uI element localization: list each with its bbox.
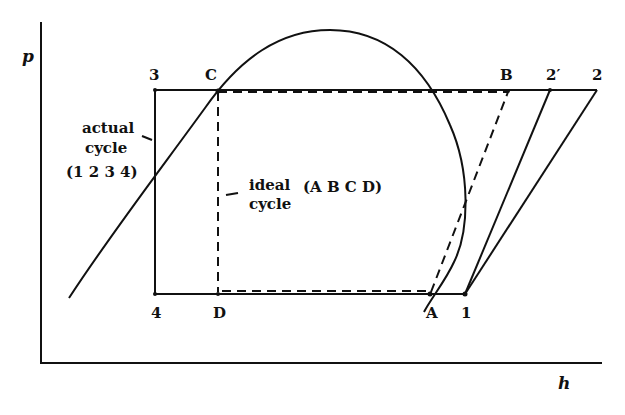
actual-compression-line [465,90,597,294]
x-axis-label: h [558,373,570,393]
annotation-ideal-line3: (A B C D) [303,178,382,196]
point-B-dot [506,89,510,93]
label-point-2prime: 2′ [546,66,560,84]
label-point-A: A [425,304,438,322]
label-point-B: B [500,66,513,84]
label-point-3: 3 [149,66,159,84]
annotation-actual-line1: actual [82,119,134,137]
compression-2prime-line [465,90,550,294]
point-D-dot [216,292,220,296]
annotation-actual-leader [142,136,152,140]
annotation-actual-line3: (1 2 3 4) [66,163,138,181]
label-point-C: C [205,66,217,84]
point-C-dot [216,89,221,94]
label-point-D: D [213,304,226,322]
point-1-dot [463,292,468,297]
annotation-ideal-leader [226,193,238,195]
point-A-dot [428,292,433,297]
point-4-dot [153,292,157,296]
annotation-ideal-line1: ideal [249,176,290,194]
p-h-diagram: p h 3 C B 2′ 2 4 D A 1 actual cycle (1 2… [0,0,625,415]
y-axis-label: p [22,46,34,66]
annotation-actual-line2: cycle [85,139,127,157]
label-point-4: 4 [151,304,161,322]
annotation-ideal-line2: cycle [249,195,291,213]
point-3-dot [153,88,157,92]
point-2prime-dot [548,88,552,92]
ideal-compression-line [431,92,508,292]
label-point-2: 2 [592,66,602,84]
label-point-1: 1 [461,304,471,322]
